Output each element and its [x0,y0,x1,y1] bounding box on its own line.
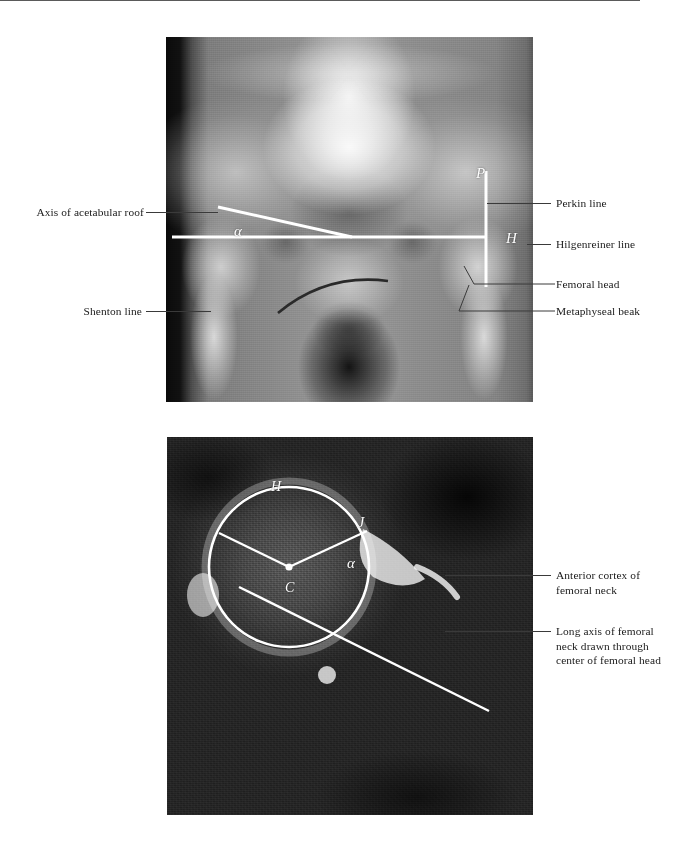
label-axis-of-acetabular-roof: Axis of acetabular roof [28,205,144,220]
junction-point-marker: J [358,515,364,531]
label-metaphyseal-beak: Metaphyseal beak [556,304,699,319]
radiograph-grain [166,37,533,402]
perkin-line-marker: P [476,165,485,182]
leader-long-axis-of-femoral-neck [445,631,551,632]
leader-perkin-line [487,203,551,204]
acetabular-angle-marker: α [234,223,242,240]
label-shenton-line: Shenton line [28,304,142,319]
axial-ct-femoral-neck: H C J α [167,437,533,815]
leader-hilgenreiner-line [527,244,551,245]
leader-metaphyseal-beak [455,283,555,319]
label-anterior-cortex-of-femoral-neck: Anterior cortex of femoral neck [556,568,696,597]
leader-anterior-cortex-of-femoral-neck [445,575,551,576]
ap-pelvis-radiograph: P H α [166,37,533,402]
label-hilgenreiner-line: Hilgenreiner line [556,237,694,252]
label-perkin-line: Perkin line [556,196,691,211]
femoral-head-circle-marker: H [271,479,281,495]
leader-shenton-line [146,311,211,312]
hilgenreiner-line-marker: H [506,230,517,247]
leader-axis-of-acetabular-roof [146,212,218,213]
center-of-head-marker: C [285,580,294,596]
label-long-axis-of-femoral-neck: Long axis of femoral neck drawn through … [556,624,699,668]
figure-page: P H α Axis of acetabular roof Shenton li… [0,0,699,842]
ct-grain [167,437,533,815]
footer-rule [0,0,640,1]
label-femoral-head: Femoral head [556,277,694,292]
alpha-angle-marker: α [347,555,355,572]
